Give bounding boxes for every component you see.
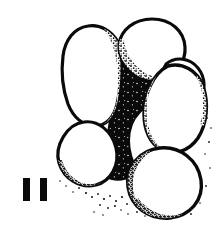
figure-panel: II	[0, 0, 222, 225]
foraminifera-illustration	[0, 0, 222, 225]
chamber-lower-right	[125, 146, 201, 225]
